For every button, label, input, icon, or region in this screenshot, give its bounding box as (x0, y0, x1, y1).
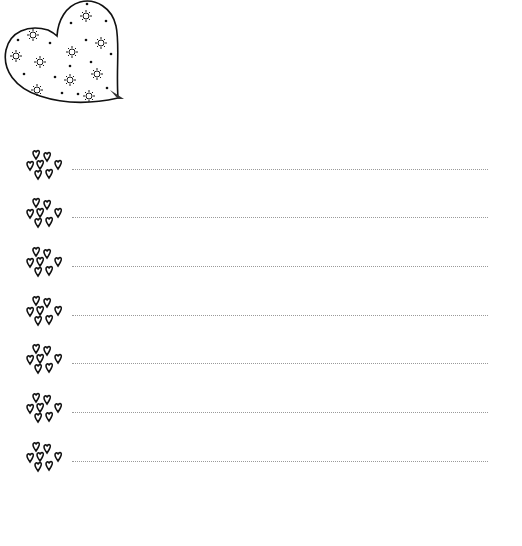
dotted-writing-line[interactable] (72, 266, 488, 267)
writing-line-row (22, 342, 492, 382)
heart-cluster-icon (22, 391, 66, 431)
heart-cluster-icon (22, 196, 66, 236)
dotted-writing-line[interactable] (72, 461, 488, 462)
writing-line-row (22, 294, 492, 334)
heart-cluster-icon (22, 245, 66, 285)
heart-cluster-icon (22, 148, 66, 188)
heart-cluster-icon (22, 342, 66, 382)
writing-line-row (22, 391, 492, 431)
writing-line-row (22, 440, 492, 480)
dotted-writing-line[interactable] (72, 412, 488, 413)
writing-line-row (22, 196, 492, 236)
heart-cluster-icon (22, 440, 66, 480)
decorative-heart-icon (0, 0, 130, 106)
dotted-writing-line[interactable] (72, 217, 488, 218)
dotted-writing-line[interactable] (72, 169, 488, 170)
dotted-writing-line[interactable] (72, 315, 488, 316)
dotted-writing-line[interactable] (72, 363, 488, 364)
writing-line-row (22, 245, 492, 285)
heart-cluster-icon (22, 294, 66, 334)
writing-line-row (22, 148, 492, 188)
